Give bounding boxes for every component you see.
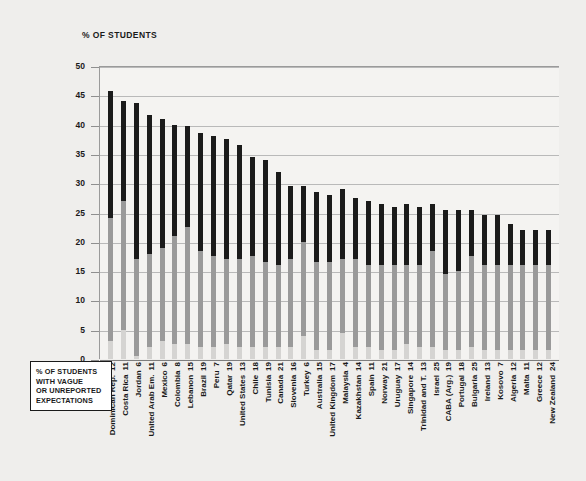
y-tick-label-35: 35: [76, 149, 85, 159]
y-tick-label-25: 25: [76, 208, 85, 218]
stacked-bar[interactable]: [392, 67, 397, 359]
bar-column[interactable]: [478, 67, 491, 359]
stacked-bar[interactable]: [533, 67, 538, 359]
stacked-bar[interactable]: [443, 67, 448, 359]
stacked-bar[interactable]: [430, 67, 435, 359]
bar-segment-light: [546, 350, 551, 359]
bar-segment-mid: [327, 262, 332, 350]
bar-segment-dark: [185, 126, 190, 227]
stacked-bar[interactable]: [250, 67, 255, 359]
bar-column[interactable]: [349, 67, 362, 359]
bar-segment-dark: [314, 192, 319, 262]
bar-segment-mid: [301, 242, 306, 336]
stacked-bar[interactable]: [276, 67, 281, 359]
bar-segment-mid: [417, 265, 422, 347]
legend-line-0: % OF STUDENTS: [36, 367, 107, 377]
stacked-bar[interactable]: [263, 67, 268, 359]
bar-column[interactable]: [272, 67, 285, 359]
bar-column[interactable]: [233, 67, 246, 359]
bar-column[interactable]: [362, 67, 375, 359]
bar-column[interactable]: [207, 67, 220, 359]
bar-column[interactable]: [491, 67, 504, 359]
bar-column[interactable]: [104, 67, 117, 359]
bar-column[interactable]: [143, 67, 156, 359]
stacked-bar[interactable]: [172, 67, 177, 359]
y-axis-tick-labels: 05101520253035404550: [0, 66, 95, 359]
bar-segment-mid: [508, 265, 513, 350]
bar-column[interactable]: [181, 67, 194, 359]
stacked-bar[interactable]: [237, 67, 242, 359]
y-tick-label-15: 15: [76, 266, 85, 276]
stacked-bar[interactable]: [327, 67, 332, 359]
y-tick-label-10: 10: [76, 295, 85, 305]
bar-column[interactable]: [517, 67, 530, 359]
stacked-bar[interactable]: [417, 67, 422, 359]
stacked-bar[interactable]: [288, 67, 293, 359]
bar-column[interactable]: [297, 67, 310, 359]
stacked-bar[interactable]: [301, 67, 306, 359]
stacked-bar[interactable]: [198, 67, 203, 359]
bar-column[interactable]: [246, 67, 259, 359]
bar-column[interactable]: [375, 67, 388, 359]
bar-column[interactable]: [504, 67, 517, 359]
bar-column[interactable]: [388, 67, 401, 359]
bar-column[interactable]: [310, 67, 323, 359]
bar-column[interactable]: [426, 67, 439, 359]
bar-column[interactable]: [220, 67, 233, 359]
stacked-bar[interactable]: [211, 67, 216, 359]
bar-column[interactable]: [452, 67, 465, 359]
stacked-bar[interactable]: [366, 67, 371, 359]
bar-column[interactable]: [413, 67, 426, 359]
stacked-bar[interactable]: [379, 67, 384, 359]
bar-segment-light: [185, 344, 190, 359]
bar-column[interactable]: [400, 67, 413, 359]
bar-column[interactable]: [284, 67, 297, 359]
bar-segment-light: [134, 356, 139, 359]
x-label-column: New Zealand24: [542, 360, 555, 478]
bar-column[interactable]: [259, 67, 272, 359]
stacked-bar[interactable]: [404, 67, 409, 359]
x-label-column: Chile18: [245, 360, 258, 478]
x-tick-value: 24: [548, 362, 557, 371]
stacked-bar[interactable]: [495, 67, 500, 359]
bar-segment-dark: [288, 186, 293, 259]
stacked-bar[interactable]: [353, 67, 358, 359]
legend-line-2: OR UNREPORTED: [36, 386, 107, 396]
bar-column[interactable]: [465, 67, 478, 359]
bar-column[interactable]: [323, 67, 336, 359]
bar-column[interactable]: [336, 67, 349, 359]
stacked-bar[interactable]: [147, 67, 152, 359]
bar-column[interactable]: [439, 67, 452, 359]
bar-segment-dark: [443, 210, 448, 274]
bar-segment-dark: [469, 210, 474, 257]
stacked-bar[interactable]: [456, 67, 461, 359]
bar-column[interactable]: [156, 67, 169, 359]
bar-segment-mid: [546, 265, 551, 350]
bar-segment-light: [430, 347, 435, 359]
stacked-bar[interactable]: [340, 67, 345, 359]
bar-column[interactable]: [194, 67, 207, 359]
bar-segment-mid: [533, 265, 538, 350]
stacked-bar[interactable]: [469, 67, 474, 359]
stacked-bar[interactable]: [121, 67, 126, 359]
stacked-bar[interactable]: [546, 67, 551, 359]
stacked-bar[interactable]: [224, 67, 229, 359]
bar-segment-mid: [198, 251, 203, 348]
x-label-column: Trinidad and T.13: [413, 360, 426, 478]
x-label-column: Ireland13: [478, 360, 491, 478]
bar-column[interactable]: [542, 67, 555, 359]
bar-column[interactable]: [130, 67, 143, 359]
stacked-bar[interactable]: [134, 67, 139, 359]
stacked-bar[interactable]: [520, 67, 525, 359]
bar-segment-mid: [392, 265, 397, 350]
stacked-bar[interactable]: [160, 67, 165, 359]
stacked-bar[interactable]: [482, 67, 487, 359]
stacked-bar[interactable]: [108, 67, 113, 359]
bar-column[interactable]: [529, 67, 542, 359]
stacked-bar[interactable]: [508, 67, 513, 359]
bar-segment-dark: [147, 115, 152, 254]
bar-column[interactable]: [117, 67, 130, 359]
bar-column[interactable]: [168, 67, 181, 359]
stacked-bar[interactable]: [314, 67, 319, 359]
stacked-bar[interactable]: [185, 67, 190, 359]
